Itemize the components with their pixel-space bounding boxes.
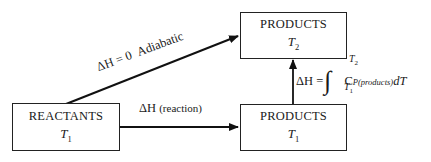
reactants-box: REACTANTS T1 [12,103,120,151]
integrand: CP(products)dT [345,74,407,88]
integral-label: ΔH =∫ T2 T1 CP(products)dT [296,62,406,92]
reactants-temp: T1 [60,126,71,147]
integral-lower-limit: T1 [344,81,353,95]
products-t2-title: PRODUCTS [260,16,327,32]
reaction-label: ΔH (reaction) [139,101,202,116]
reaction-dh: ΔH [139,101,156,115]
products-t1-title: PRODUCTS [260,108,327,124]
integral-sign: ∫ [324,66,331,95]
reaction-paren: (reaction) [159,102,202,114]
integral-upper-limit: T2 [349,53,358,67]
reactants-title: REACTANTS [29,108,103,124]
products-t1-box: PRODUCTS T1 [240,104,347,151]
integral-lhs: ΔH = [296,74,323,88]
products-t2-temp: T2 [288,34,299,55]
products-t1-temp: T1 [288,126,299,147]
products-t2-box: PRODUCTS T2 [240,12,347,59]
